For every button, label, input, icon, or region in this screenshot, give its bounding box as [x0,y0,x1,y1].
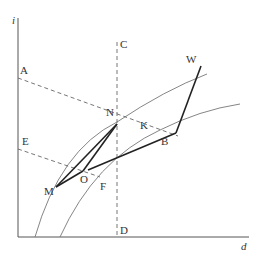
process-line-k-w [176,66,201,133]
point-label-w: W [186,53,197,65]
y-axis-label: i [12,14,15,26]
point-label-c: C [120,38,127,50]
dashed-line-a-b [18,78,178,136]
point-label-m: M [44,185,54,197]
point-label-b: B [161,135,168,147]
point-label-d: D [120,224,128,236]
process-line-o-n [83,124,117,171]
point-label-a: A [20,64,28,76]
lower-curve [60,104,240,237]
point-label-n: N [106,106,114,118]
point-label-k: K [140,119,148,131]
point-label-o: O [80,173,88,185]
x-axis-label: d [241,240,247,252]
point-label-e: E [22,135,29,147]
point-label-f: F [100,180,106,192]
i-d-diagram: i d A B C D E F K M N O W [0,0,263,260]
